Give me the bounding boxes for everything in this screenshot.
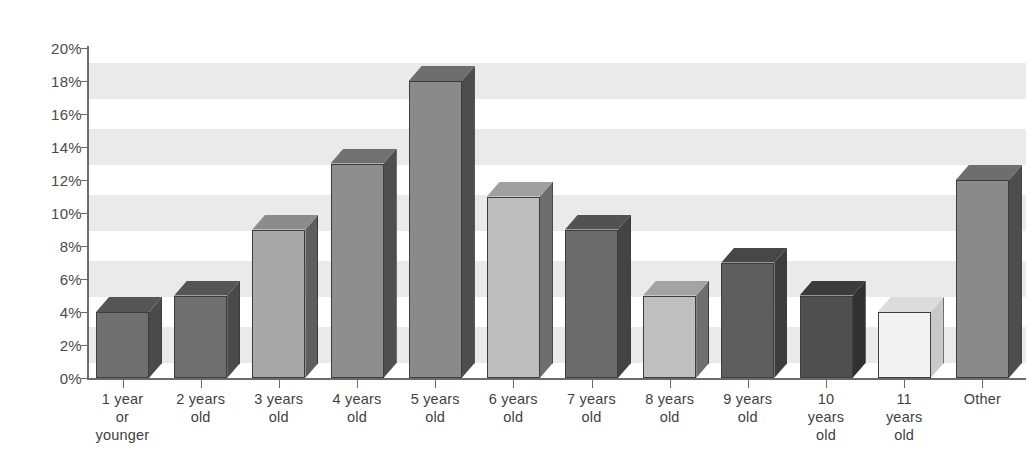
bar [878, 297, 944, 378]
x-axis-label-line: old [781, 426, 871, 444]
x-axis-label-line: years [781, 408, 871, 426]
y-axis-tick-mark [81, 378, 88, 379]
bar-front-face [721, 263, 774, 379]
y-axis-tick-label: 14% [36, 139, 82, 156]
x-axis-label-line: old [156, 408, 246, 426]
bar-front-face [878, 312, 931, 378]
plot-area [88, 48, 1026, 378]
x-axis-category-label: 5 yearsold [390, 390, 480, 426]
y-axis-tick-mark [81, 114, 88, 115]
bar-front-face [643, 296, 696, 379]
x-axis-tick-mark [201, 380, 202, 388]
y-axis-tick-label: 0% [36, 370, 82, 387]
x-axis-category-label: 9 yearsold [703, 390, 793, 426]
x-axis-tick-mark [904, 380, 905, 388]
y-axis-tick-mark [81, 246, 88, 247]
background-band [88, 129, 1026, 165]
y-axis-tick-mark [81, 147, 88, 148]
bar [956, 165, 1022, 378]
x-axis-label-line: old [312, 408, 402, 426]
x-axis-label-line: 9 years [703, 390, 793, 408]
x-axis-category-label: 11yearsold [859, 390, 949, 444]
x-axis-category-label: 6 yearsold [468, 390, 558, 426]
bar-front-face [409, 81, 462, 378]
bar [721, 248, 787, 379]
x-axis-label-line: 2 years [156, 390, 246, 408]
x-axis-label-line: 4 years [312, 390, 402, 408]
x-axis-label-line: 3 years [234, 390, 324, 408]
x-axis-label-line: or [78, 408, 168, 426]
x-axis-tick-mark [592, 380, 593, 388]
bar [174, 281, 240, 379]
bar [331, 149, 397, 379]
x-axis-tick-mark [435, 380, 436, 388]
x-axis-tick-mark [123, 380, 124, 388]
x-axis-category-label: 4 yearsold [312, 390, 402, 426]
bar [96, 297, 162, 378]
x-axis-label-line: old [625, 408, 715, 426]
y-axis-tick-mark [81, 180, 88, 181]
x-axis-tick-mark [982, 380, 983, 388]
bar-side-face [384, 149, 397, 379]
x-axis-label-line: years [859, 408, 949, 426]
bar [565, 215, 631, 379]
y-axis-tick-mark [81, 81, 88, 82]
x-axis-category-label: Other [937, 390, 1027, 408]
bar-front-face [565, 230, 618, 379]
x-axis-label-line: old [547, 408, 637, 426]
background-band [88, 195, 1026, 231]
x-axis-label-line: old [468, 408, 558, 426]
x-axis-category-label: 1 yearoryounger [78, 390, 168, 444]
bar-front-face [487, 197, 540, 379]
bar-side-face [774, 248, 787, 379]
bar-side-face [540, 182, 553, 379]
background-band [88, 63, 1026, 99]
x-axis-category-label: 8 yearsold [625, 390, 715, 426]
bar-side-face [1009, 165, 1022, 378]
bar [800, 281, 866, 379]
y-axis-tick-label: 10% [36, 205, 82, 222]
bar-side-face [462, 66, 475, 378]
y-axis-tick-label: 6% [36, 271, 82, 288]
y-axis-tick-label: 20% [36, 40, 82, 57]
x-axis-label-line: old [859, 426, 949, 444]
bar-front-face [956, 180, 1009, 378]
x-axis-label-line: 1 year [78, 390, 168, 408]
x-axis-tick-mark [279, 380, 280, 388]
x-axis-label-line: old [703, 408, 793, 426]
x-axis-line [87, 378, 1026, 380]
y-axis-tick-mark [81, 279, 88, 280]
x-axis-label-line: Other [937, 390, 1027, 408]
y-axis-tick-mark [81, 312, 88, 313]
bar-side-face [853, 281, 866, 379]
y-axis-tick-mark [81, 345, 88, 346]
bar-front-face [174, 296, 227, 379]
bar-chart: 0%2%4%6%8%10%12%14%16%18%20% 1 yearoryou… [0, 0, 1032, 470]
bar-front-face [800, 296, 853, 379]
bar [487, 182, 553, 379]
x-axis-label-line: younger [78, 426, 168, 444]
bar [409, 66, 475, 378]
y-axis-tick-label: 2% [36, 337, 82, 354]
x-axis-label-line: 11 [859, 390, 949, 408]
y-axis-tick-mark [81, 213, 88, 214]
x-axis-category-label: 7 yearsold [547, 390, 637, 426]
y-axis-tick-labels: 0%2%4%6%8%10%12%14%16%18%20% [26, 0, 82, 470]
bar-front-face [252, 230, 305, 379]
x-axis-tick-mark [748, 380, 749, 388]
x-axis-tick-mark [513, 380, 514, 388]
x-axis-tick-mark [670, 380, 671, 388]
bar [252, 215, 318, 379]
bar-front-face [331, 164, 384, 379]
bar-side-face [696, 281, 709, 379]
bar-front-face [96, 312, 149, 378]
x-axis-label-line: 7 years [547, 390, 637, 408]
x-axis-category-label: 10yearsold [781, 390, 871, 444]
bar-side-face [227, 281, 240, 379]
x-axis-label-line: old [390, 408, 480, 426]
bar-side-face [305, 215, 318, 379]
y-axis-tick-label: 18% [36, 73, 82, 90]
y-axis-tick-label: 12% [36, 172, 82, 189]
x-axis-label-line: 5 years [390, 390, 480, 408]
x-axis-tick-mark [826, 380, 827, 388]
